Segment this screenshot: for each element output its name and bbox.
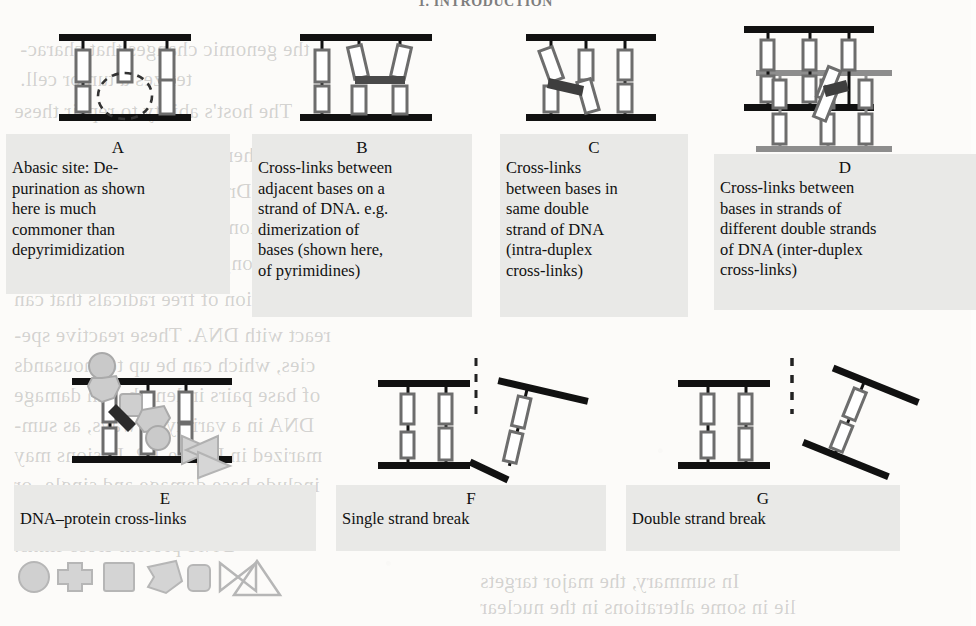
legend-square-icon — [104, 563, 134, 591]
panel-d-caption: D Cross-links between bases in strands o… — [714, 154, 976, 310]
panel-g-caption-text: Double strand break — [632, 509, 766, 528]
panel-g-caption: G Double strand break — [626, 485, 900, 551]
adjacent-base-crosslink-illustration — [296, 28, 456, 128]
double-strand-break-illustration — [626, 358, 926, 480]
panel-a-diagram — [55, 28, 205, 128]
inter-duplex-crosslink-illustration — [736, 18, 936, 158]
legend-rounded-square-icon — [188, 565, 210, 591]
panel-c-letter: C — [506, 137, 682, 158]
panel-d-letter: D — [720, 157, 970, 178]
panel-e-diagram — [58, 352, 298, 478]
running-head: 1. INTRODUCTION — [0, 0, 971, 10]
panel-a-letter: A — [12, 137, 224, 158]
panel-f-diagram — [336, 358, 596, 480]
protein-shape-legend — [16, 555, 266, 601]
panel-g-diagram — [626, 358, 926, 480]
showthrough-line: react with DNA. These reactive spe- — [14, 320, 331, 350]
panel-c-caption: C Cross-links between bases in same doub… — [500, 134, 688, 317]
abasic-site-illustration — [55, 28, 205, 128]
panel-d-caption-text: Cross-links between bases in strands of … — [720, 178, 876, 279]
protein-shape-legend-icons — [16, 555, 266, 601]
panel-f-caption-text: Single strand break — [342, 509, 469, 528]
protein-circle-icon — [89, 353, 115, 379]
legend-arrow-blob-icon — [148, 561, 182, 593]
showthrough-line: In summary, the major targets — [480, 566, 739, 596]
panel-c-diagram — [522, 28, 682, 128]
panel-a-caption: A Abasic site: De- purination as shown h… — [6, 134, 230, 294]
panel-c-caption-text: Cross-links between bases in same double… — [506, 158, 618, 280]
single-strand-break-illustration — [336, 358, 596, 480]
panel-b-caption: B Cross-links between adjacent bases on … — [252, 134, 472, 317]
legend-triangle-icon — [234, 561, 280, 595]
protein-small-circle-icon — [146, 426, 170, 450]
legend-cross-blob-icon — [58, 563, 92, 591]
panel-e-caption: E DNA–protein cross-links — [14, 485, 316, 551]
panel-e-letter: E — [20, 488, 310, 509]
panel-g-letter: G — [632, 488, 894, 509]
showthrough-line: lie in some alterations in the nuclear — [480, 592, 796, 622]
intra-duplex-crosslink-illustration — [522, 28, 682, 128]
dna-protein-crosslink-illustration — [58, 352, 298, 478]
panel-f-letter: F — [342, 488, 600, 509]
panel-e-caption-text: DNA–protein cross-links — [20, 509, 186, 528]
panel-d-diagram — [736, 18, 936, 158]
panel-b-caption-text: Cross-links between adjacent bases on a … — [258, 158, 392, 280]
panel-f-caption: F Single strand break — [336, 485, 606, 551]
panel-b-diagram — [296, 28, 456, 128]
panel-b-letter: B — [258, 137, 466, 158]
legend-circle-icon — [19, 562, 49, 592]
protein-shape-legend-triangle — [232, 557, 284, 599]
panel-a-caption-text: Abasic site: De- purination as shown her… — [12, 158, 145, 259]
